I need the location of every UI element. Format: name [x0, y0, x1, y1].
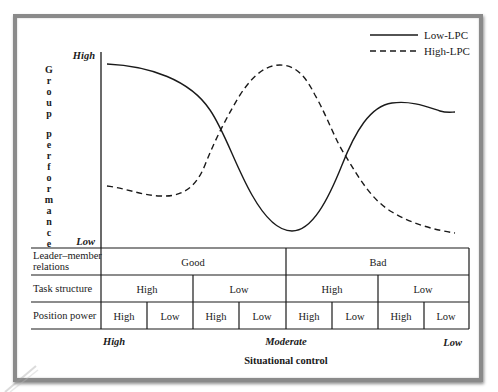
- svg-text:e: e: [47, 139, 52, 150]
- row-label-task-structure: Task structure: [33, 283, 92, 294]
- cell-power-8: Low: [436, 311, 456, 322]
- high-lpc-curve: [107, 65, 455, 233]
- cell-power-5: High: [299, 311, 321, 322]
- legend: Low-LPC High-LPC: [370, 29, 470, 57]
- x-tick-high: High: [102, 336, 125, 347]
- svg-text:e: e: [47, 238, 52, 249]
- cell-task-4: Low: [413, 284, 433, 295]
- svg-text:f: f: [47, 161, 51, 172]
- cell-lmr-bad: Bad: [370, 257, 388, 268]
- svg-text:G: G: [45, 64, 53, 75]
- svg-text:o: o: [47, 172, 52, 183]
- cell-task-1: High: [137, 284, 159, 295]
- svg-text:r: r: [47, 183, 52, 194]
- low-lpc-curve: [107, 64, 455, 231]
- y-tick-high: High: [72, 50, 95, 61]
- legend-high-lpc: High-LPC: [424, 45, 470, 57]
- svg-text:n: n: [46, 216, 52, 227]
- cell-lmr-good: Good: [181, 257, 205, 268]
- svg-text:o: o: [47, 86, 52, 97]
- svg-text:m: m: [45, 194, 54, 205]
- y-tick-low: Low: [75, 236, 96, 247]
- y-axis-title: G r o u p p e r f o r m a n c e: [45, 64, 54, 249]
- svg-text:c: c: [47, 227, 52, 238]
- cell-power-7: High: [391, 311, 413, 322]
- svg-text:r: r: [47, 75, 52, 86]
- row-label-leader-member: Leader–member: [33, 250, 102, 261]
- cell-power-6: Low: [345, 311, 365, 322]
- contingency-chart: High Low G r o u p p e r f o r m a n c e…: [0, 0, 498, 392]
- cell-power-1: High: [114, 311, 136, 322]
- cell-power-2: Low: [160, 311, 180, 322]
- paper-clip-icon: [5, 366, 38, 392]
- row-label-position-power: Position power: [33, 310, 97, 321]
- cell-task-2: Low: [229, 284, 249, 295]
- legend-low-lpc: Low-LPC: [424, 29, 468, 41]
- x-tick-moderate: Moderate: [264, 336, 307, 347]
- cell-power-4: Low: [252, 311, 272, 322]
- cell-power-3: High: [206, 311, 228, 322]
- x-tick-low: Low: [442, 337, 463, 348]
- svg-text:p: p: [46, 108, 52, 119]
- x-axis-title: Situational control: [244, 355, 328, 366]
- row-label-relations: relations: [33, 261, 69, 272]
- svg-text:a: a: [47, 205, 52, 216]
- svg-text:p: p: [46, 128, 52, 139]
- svg-text:r: r: [47, 150, 52, 161]
- svg-text:u: u: [46, 97, 52, 108]
- cell-task-3: High: [322, 284, 344, 295]
